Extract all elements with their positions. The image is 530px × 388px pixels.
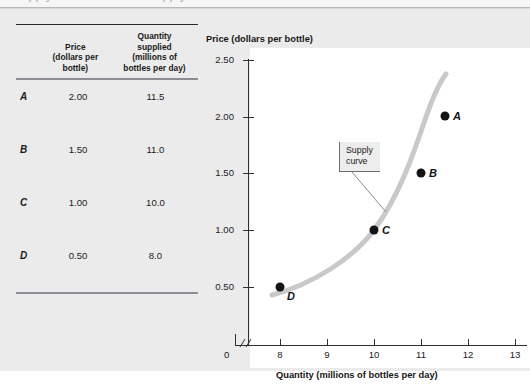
cutoff-text-strip: Supply Supply [0,0,530,7]
data-point-D [276,283,285,292]
table-cell-rowlabel: C [16,186,45,208]
table-row: D 0.50 8.0 [16,239,198,292]
data-point-label-B: B [429,167,437,179]
data-point-C [370,226,379,235]
table-cell-quantity: 8.0 [113,239,198,261]
table-header-quantity: Quantity supplied (millions of bottles p… [111,31,198,73]
table-header-quantity-line2: supplied [111,42,198,53]
table-header-price-line1: Price [42,42,109,53]
table-cell-rowlabel: B [16,133,45,155]
table-cell-price: 2.00 [45,80,113,102]
table-cell-quantity: 11.0 [113,133,198,155]
data-point-label-D: D [287,290,295,302]
callout-line2: curve [346,156,373,167]
data-point-label-A: A [453,110,461,122]
cutoff-text-left: Supply [14,0,52,2]
table-cell-quantity: 11.5 [113,80,198,102]
table-body: A 2.00 11.5 B 1.50 11.0 C 1.00 10.0 D 0.… [16,80,198,292]
supply-schedule-table: Price (dollars per bottle) Quantity supp… [16,24,198,294]
table-header-row: Price (dollars per bottle) Quantity supp… [16,25,198,78]
table-row: B 1.50 11.0 [16,133,198,186]
table-row: A 2.00 11.5 [16,80,198,133]
table-cell-rowlabel: D [16,239,45,261]
data-point-A [441,112,450,121]
callout-line1: Supply [346,145,373,156]
data-point-label-C: C [382,224,390,236]
table-header-price: Price (dollars per bottle) [42,42,111,74]
table-bottom-rule [16,292,198,294]
table-header-quantity-line1: Quantity [111,31,198,42]
supply-curve-callout: Supply curve [339,142,380,172]
data-point-B [417,169,426,178]
table-row: C 1.00 10.0 [16,186,198,239]
supply-curve-chart: Price (dollars per bottle) Quantity (mil… [204,22,530,382]
table-cell-price: 1.50 [45,133,113,155]
callout-leader-line [352,172,386,212]
table-cell-price: 0.50 [45,239,113,261]
cutoff-text-right: Supply [148,0,186,2]
supply-curve-path [204,22,530,382]
table-header-quantity-line4: bottles per day) [111,63,198,74]
table-cell-rowlabel: A [16,80,45,102]
top-divider-rule [0,7,530,9]
table-header-price-line2: (dollars per [42,52,109,63]
table-cell-price: 1.00 [45,186,113,208]
table-header-quantity-line3: (millions of [111,52,198,63]
table-header-price-line3: bottle) [42,63,109,74]
supply-curve-figure: Supply Supply Price (dollars per bottle)… [0,0,530,388]
table-cell-quantity: 10.0 [113,186,198,208]
